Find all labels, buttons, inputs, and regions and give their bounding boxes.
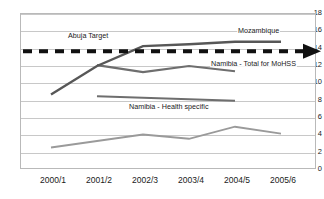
x-tick-label: 2004/5	[224, 176, 250, 185]
x-axis: 2000/1 2001/2 2002/3 2003/4 2004/5 2005/…	[0, 176, 324, 192]
x-tick-label: 2002/3	[132, 176, 158, 185]
x-tick-label: 2001/2	[86, 176, 112, 185]
x-tick-label: 2003/4	[178, 176, 204, 185]
x-tick-label: 2000/1	[40, 176, 66, 185]
line-chart: 18 16 14 12 10 8 6 4 2 0	[0, 0, 324, 199]
plot-area: Abuja Target Mozambique Namibia - Total …	[20, 13, 316, 169]
namibia-total-mohss-label: Namibia - Total for MoHSS	[210, 60, 297, 67]
abuja-target-label: Abuja Target	[67, 32, 109, 39]
x-tick-label: 2005/6	[270, 176, 296, 185]
namibia-health-specific-label: Namibia - Health specific	[128, 103, 210, 110]
arrow-right-icon	[303, 44, 321, 59]
mozambique-label: Mozambique	[237, 27, 280, 34]
